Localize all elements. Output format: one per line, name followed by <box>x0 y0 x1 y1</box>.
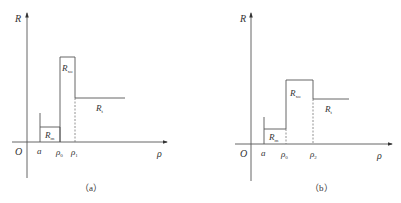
panel-a: R ρ O a ρ0 ρ1 Rm Rxo Rt （a） <box>12 13 167 193</box>
origin-label: O <box>240 148 247 159</box>
region-rxo-label: Rxo <box>289 88 301 99</box>
region-rxo-label: Rxo <box>61 63 73 74</box>
tick-rho2: ρ2 <box>309 149 317 160</box>
tick-a: a <box>261 148 266 158</box>
origin-label: O <box>15 146 22 157</box>
x-axis-label: ρ <box>156 148 162 159</box>
x-axis-label: ρ <box>376 150 382 161</box>
tick-rho0: ρ0 <box>280 149 288 160</box>
y-axis-label: R <box>239 13 246 24</box>
tick-a: a <box>37 146 42 156</box>
tick-rho0: ρ0 <box>55 147 63 158</box>
region-rm-label: Rm <box>268 132 279 143</box>
panel-caption: （b） <box>310 183 333 193</box>
panel-b: R ρ O a ρ0 ρ2 Rm Rxo Rt （b） <box>235 13 392 193</box>
tick-rho1: ρ1 <box>70 147 78 158</box>
panel-caption: （a） <box>80 183 102 193</box>
region-rt-label: Rt <box>324 104 333 115</box>
diagram-canvas: R ρ O a ρ0 ρ1 Rm Rxo Rt （a） R ρ O a ρ0 ρ… <box>0 0 401 203</box>
region-rm-label: Rm <box>44 130 55 141</box>
y-axis-label: R <box>14 13 21 24</box>
region-rt-label: Rt <box>95 103 104 114</box>
